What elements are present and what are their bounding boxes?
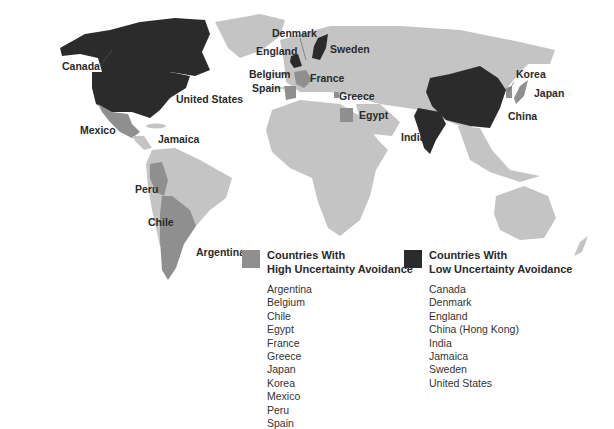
- label-france: France: [310, 72, 344, 84]
- list-item: United States: [429, 377, 519, 390]
- list-item: Sweden: [429, 363, 519, 376]
- label-spain: Spain: [252, 82, 281, 94]
- legend-high-title-line1: Countries With: [267, 248, 413, 262]
- label-england: England: [256, 45, 297, 57]
- list-item: China (Hong Kong): [429, 323, 519, 336]
- label-argentina: Argentina: [196, 246, 245, 258]
- korea-shape: [506, 86, 512, 98]
- list-item: Greece: [267, 350, 312, 363]
- legend-high-title-line2: High Uncertainty Avoidance: [267, 262, 413, 276]
- label-canada: Canada: [62, 60, 100, 72]
- list-item: Canada: [429, 283, 519, 296]
- label-egypt: Egypt: [359, 109, 388, 121]
- caribbean-shape: [146, 124, 166, 129]
- label-denmark: Denmark: [272, 27, 317, 39]
- egypt-shape: [340, 108, 353, 122]
- label-sweden: Sweden: [330, 43, 370, 55]
- list-item: Japan: [267, 363, 312, 376]
- list-item: Egypt: [267, 323, 312, 336]
- label-united-states: United States: [176, 93, 243, 105]
- southeast-asia-shape: [458, 126, 540, 182]
- legend-swatch-high: [242, 250, 260, 268]
- label-jamaica: Jamaica: [158, 133, 199, 145]
- list-item: Argentina: [267, 283, 312, 296]
- label-japan: Japan: [534, 87, 564, 99]
- list-item: Korea: [267, 377, 312, 390]
- legend-swatch-low: [404, 250, 422, 268]
- list-item: Spain: [267, 417, 312, 429]
- label-chile: Chile: [148, 216, 174, 228]
- list-item: Mexico: [267, 390, 312, 403]
- list-item: Belgium: [267, 296, 312, 309]
- list-item: England: [429, 310, 519, 323]
- japan-shape: [514, 80, 528, 104]
- label-belgium: Belgium: [249, 68, 290, 80]
- list-item: France: [267, 337, 312, 350]
- list-item: Peru: [267, 404, 312, 417]
- spain-shape: [284, 86, 296, 100]
- label-peru: Peru: [135, 183, 158, 195]
- legend-high-list: Argentina Belgium Chile Egypt France Gre…: [267, 283, 312, 429]
- list-item: India: [429, 337, 519, 350]
- label-mexico: Mexico: [80, 124, 116, 136]
- label-korea: Korea: [516, 68, 546, 80]
- list-item: Denmark: [429, 296, 519, 309]
- legend-low-title-line2: Low Uncertainty Avoidance: [429, 262, 572, 276]
- central-america-shape: [132, 136, 152, 150]
- australia-shape: [494, 186, 556, 240]
- legend-low-title-line1: Countries With: [429, 248, 572, 262]
- new-zealand-shape: [574, 236, 588, 256]
- list-item: Chile: [267, 310, 312, 323]
- label-greece: Greece: [339, 90, 375, 102]
- legend-low-title: Countries With Low Uncertainty Avoidance: [429, 248, 572, 276]
- list-item: Jamaica: [429, 350, 519, 363]
- label-china: China: [508, 110, 537, 122]
- legend-high-title: Countries With High Uncertainty Avoidanc…: [267, 248, 413, 276]
- label-india: India: [401, 131, 426, 143]
- legend-low-list: Canada Denmark England China (Hong Kong)…: [429, 283, 519, 390]
